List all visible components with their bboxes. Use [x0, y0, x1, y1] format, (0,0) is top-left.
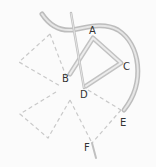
d-to-e-guide	[88, 90, 121, 110]
upper-left-diamond	[19, 34, 60, 86]
e-to-f-guide	[92, 110, 121, 143]
upper-left-diamond-edge	[50, 34, 66, 76]
label-d: D	[80, 89, 88, 100]
label-f: F	[84, 142, 90, 153]
needle-tail	[92, 143, 96, 158]
label-e: E	[120, 117, 126, 128]
label-a: A	[89, 25, 96, 36]
stitch-diagram: A B C D E F	[0, 0, 156, 167]
lower-left-diamond	[20, 92, 70, 138]
lower-middle-guide	[70, 100, 92, 143]
label-b: B	[62, 73, 69, 84]
diagram-svg: A B C D E F	[0, 0, 156, 167]
label-c: C	[123, 61, 130, 72]
